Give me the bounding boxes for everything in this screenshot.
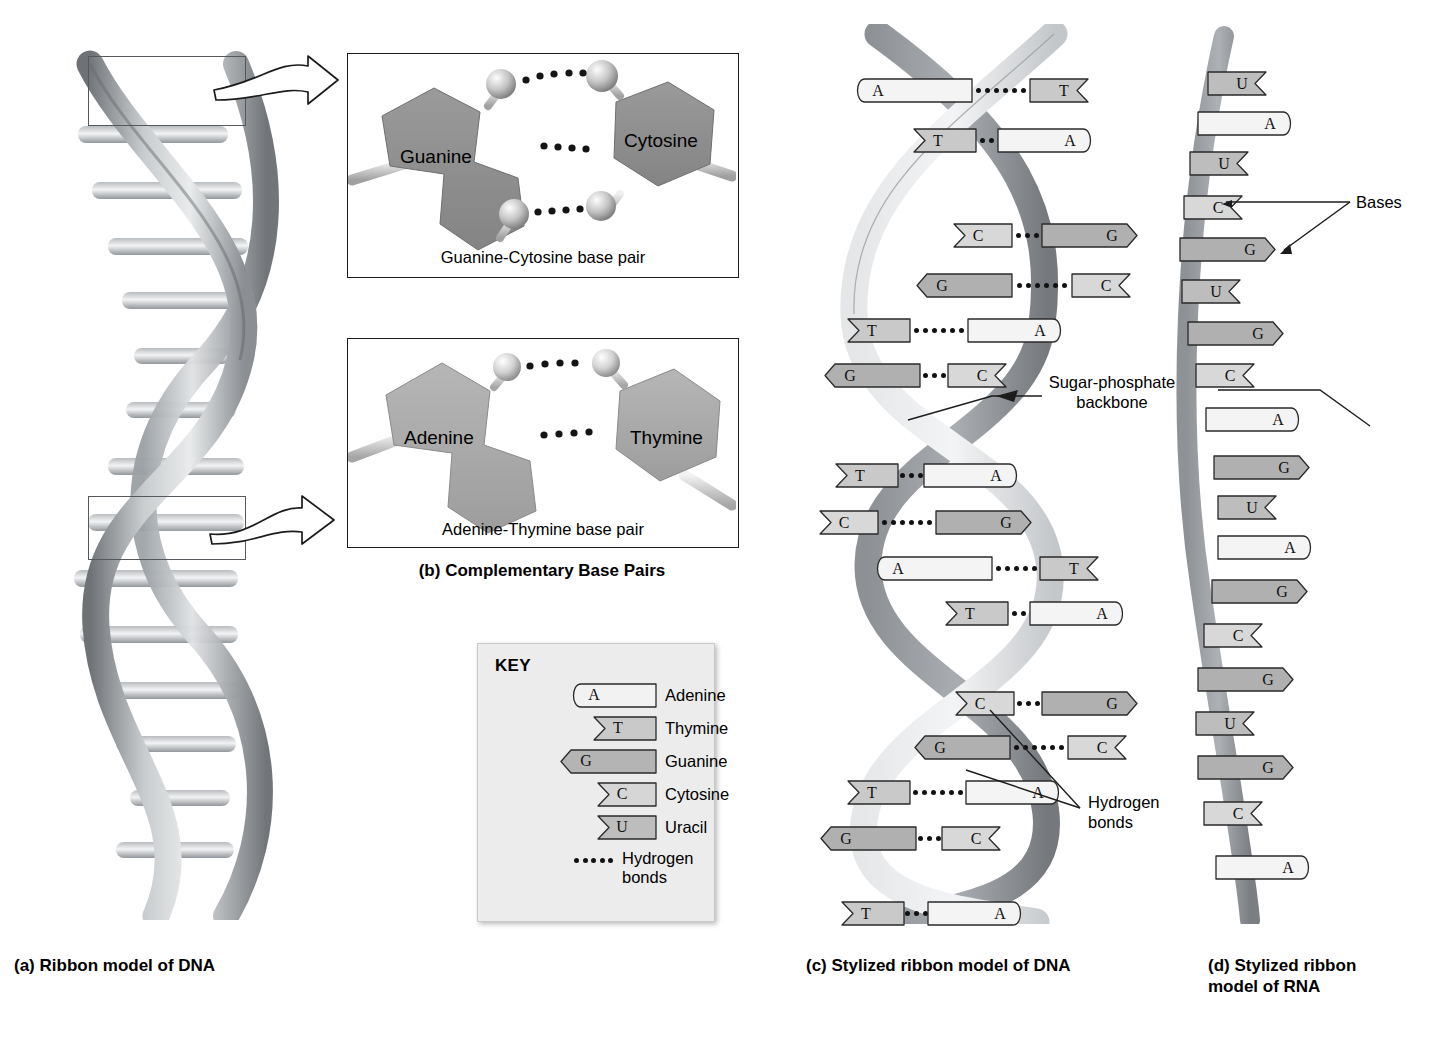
stylized-ribbon-rna: U A U C G U G C A G U A G C G U	[1160, 24, 1340, 924]
hydrogen-bond-dots	[905, 911, 928, 916]
hydrogen-bond-dots	[900, 473, 923, 478]
base-letter: A	[889, 557, 907, 580]
key-row-cytosine: CCytosine	[598, 781, 729, 807]
key-label-adenine: Adenine	[665, 686, 726, 705]
base-letter: C	[1097, 274, 1115, 297]
base-tag-c: C	[1204, 802, 1262, 825]
base-letter: T	[1055, 79, 1073, 102]
base-tag-g: G	[916, 274, 1012, 297]
base-tag-t: T	[836, 464, 898, 487]
base-tag-t: T	[946, 602, 1008, 625]
hydrogen-bond-dots	[996, 566, 1037, 571]
key-row-uracil: UUracil	[598, 814, 707, 840]
panel-b-title: (b) Complementary Base Pairs	[347, 560, 737, 581]
key-row-thymine: TThymine	[594, 715, 728, 741]
base-tag-u: U	[1190, 152, 1248, 175]
base-pair-row: T A	[848, 319, 1064, 342]
base-letter: G	[1275, 456, 1293, 479]
base-tag-t: T	[842, 902, 904, 925]
gc-base-pair-caption: Guanine-Cytosine base pair	[348, 248, 738, 267]
base-letter: A	[987, 464, 1005, 487]
base-letter: U	[1207, 280, 1225, 303]
base-letter: G	[1249, 322, 1267, 345]
base-pair-row: T A	[836, 464, 1020, 487]
base-tag-g: G	[560, 750, 656, 773]
base-letter: C	[1229, 802, 1247, 825]
rna-base: G	[1188, 322, 1284, 345]
base-letter: A	[1281, 536, 1299, 559]
base-tag-a: A	[1216, 856, 1312, 879]
base-pair-row: C G	[820, 511, 1032, 534]
base-pair-row: T A	[914, 129, 1094, 152]
base-tag-u: U	[1196, 712, 1254, 735]
figure-canvas: ​ Guanine Cytosine Guanine-Cytosine base…	[0, 0, 1446, 1041]
base-tag-g: G	[1214, 456, 1310, 479]
key-title: KEY	[495, 656, 531, 676]
base-tag-u: U	[598, 816, 656, 839]
base-tag-t: T	[1030, 79, 1088, 102]
base-tag-t: T	[848, 781, 910, 804]
base-letter: A	[585, 684, 603, 707]
key-label-guanine: Guanine	[665, 752, 727, 771]
base-letter: T	[863, 319, 881, 342]
rna-base: U	[1196, 712, 1254, 735]
guanine-molecule-label: Guanine	[400, 146, 472, 168]
base-letter: U	[613, 816, 631, 839]
base-tag-t: T	[914, 129, 976, 152]
rna-base: U	[1218, 496, 1276, 519]
base-letter: T	[857, 902, 875, 925]
base-pair-row: C G	[954, 224, 1138, 247]
base-letter: C	[613, 783, 631, 806]
annotation-sugar-phosphate-backbone: Sugar-phosphate backbone	[1027, 372, 1197, 412]
rna-base: G	[1198, 668, 1294, 691]
base-tag-c: C	[1204, 624, 1262, 647]
base-tag-g: G	[1198, 668, 1294, 691]
rna-base: G	[1214, 456, 1310, 479]
base-letter: C	[967, 827, 985, 850]
base-tag-t: T	[848, 319, 910, 342]
key-label-thymine: Thymine	[665, 719, 728, 738]
base-tag-a: A	[924, 464, 1020, 487]
leader-bases	[1222, 190, 1362, 270]
base-pair-box-gc: ​ Guanine Cytosine Guanine-Cytosine base…	[347, 53, 739, 278]
base-letter: U	[1215, 152, 1233, 175]
key-label-hydrogen-bonds: Hydrogen bonds	[622, 849, 694, 887]
base-letter: G	[837, 827, 855, 850]
base-letter: U	[1221, 712, 1239, 735]
base-letter: C	[1229, 624, 1247, 647]
key-row-guanine: GGuanine	[560, 748, 727, 774]
key-label-uracil: Uracil	[665, 818, 707, 837]
base-letter: A	[1061, 129, 1079, 152]
rna-base: G	[1212, 580, 1308, 603]
hydrogen-bond-dots	[980, 138, 994, 143]
base-tag-a: A	[1198, 112, 1294, 135]
hydrogen-bond-dots-icon	[574, 858, 613, 863]
base-tag-u: U	[1182, 280, 1240, 303]
base-letter: A	[1093, 602, 1111, 625]
base-tag-u: U	[1218, 496, 1276, 519]
key-legend: KEY AAdenine TThymine GGuanine CCytosine…	[477, 643, 715, 922]
base-tag-u: U	[1208, 72, 1266, 95]
base-tag-a: A	[1030, 602, 1126, 625]
base-letter: U	[1233, 72, 1251, 95]
key-row-adenine: AAdenine	[570, 682, 726, 708]
base-letter: T	[851, 464, 869, 487]
base-letter: G	[577, 750, 595, 773]
base-tag-t: T	[1040, 557, 1098, 580]
base-letter: C	[969, 224, 987, 247]
rna-base: A	[1216, 856, 1312, 879]
base-pair-row: G C	[916, 274, 1130, 297]
annotation-hydrogen-bonds: Hydrogen bonds	[1088, 792, 1208, 832]
base-tag-g: G	[936, 511, 1032, 534]
caption-panel-c: (c) Stylized ribbon model of DNA	[806, 955, 1070, 976]
base-tag-c: C	[954, 224, 1012, 247]
base-tag-a: A	[854, 79, 972, 102]
callout-arrow-at	[208, 466, 348, 556]
annotation-bases: Bases	[1356, 192, 1402, 212]
base-tag-g: G	[820, 827, 916, 850]
thymine-molecule-label: Thymine	[630, 427, 703, 449]
base-letter: U	[1243, 496, 1261, 519]
at-base-pair-caption: Adenine-Thymine base pair	[348, 520, 738, 539]
rna-base: G	[1198, 756, 1294, 779]
hydrogen-bond-dots	[1016, 233, 1039, 238]
